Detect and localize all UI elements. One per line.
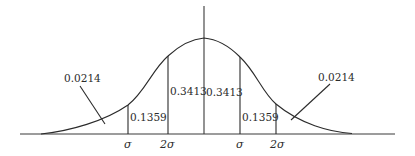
left-outer-band-area-label: 0.1359	[130, 112, 167, 123]
right-outer-band-area-label: 0.1359	[242, 112, 279, 123]
left-inner-sigma-label: 2σ	[160, 139, 175, 150]
normal-distribution-figure: 0.0214 0.1359 0.3413 0.3413 0.1359 0.021…	[0, 0, 415, 156]
right-tail-area-label: 0.0214	[318, 72, 355, 83]
right-inner-sigma-label: σ	[236, 139, 244, 150]
left-outer-sigma-label: σ	[124, 139, 132, 150]
left-tail-leader-line	[80, 86, 105, 124]
left-tail-area-label: 0.0214	[64, 73, 101, 84]
left-inner-band-area-label: 0.3413	[170, 86, 207, 97]
right-inner-band-area-label: 0.3413	[206, 87, 243, 98]
right-tail-leader-line	[291, 84, 330, 120]
right-outer-sigma-label: 2σ	[270, 139, 285, 150]
